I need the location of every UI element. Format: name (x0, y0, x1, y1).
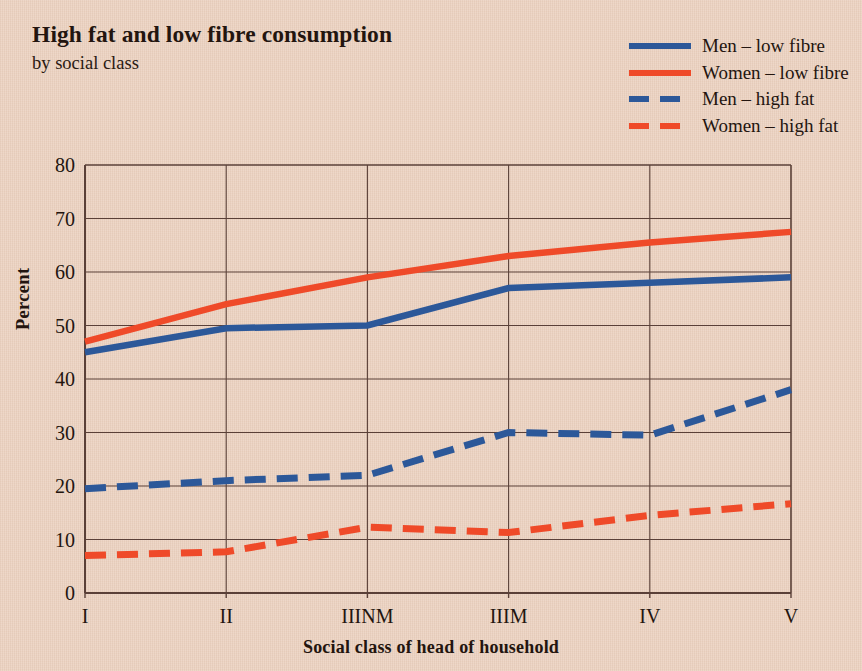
plot-svg (0, 0, 862, 671)
series-line-2 (85, 390, 791, 489)
series-line-3 (85, 504, 791, 556)
series-group (85, 232, 791, 556)
chart-figure: High fat and low fibre consumption by so… (0, 0, 862, 671)
plot-area (85, 165, 791, 593)
